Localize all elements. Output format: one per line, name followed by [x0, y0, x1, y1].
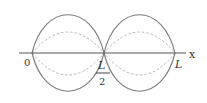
standing-wave-diagram: x 0 L 2 L [0, 0, 207, 103]
tick-label-half-numerator: L [97, 59, 105, 72]
tick-label-half-denominator: 2 [99, 76, 105, 87]
x-axis-label: x [189, 48, 196, 61]
tick-label-length: L [174, 58, 182, 71]
diagram-svg: x 0 L 2 L [0, 0, 207, 103]
tick-label-zero: 0 [24, 57, 30, 68]
